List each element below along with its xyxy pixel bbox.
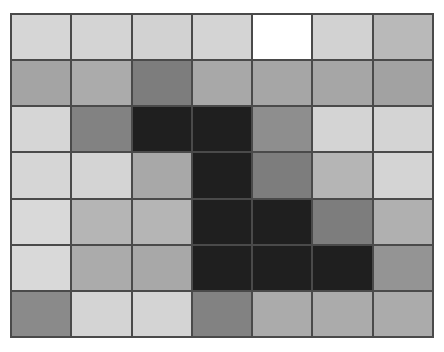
grid-cell-r2c3[interactable] — [133, 61, 191, 105]
grid-cell-r2c4[interactable] — [193, 61, 251, 105]
grid-cell-r5c2[interactable] — [72, 200, 130, 244]
grid-cell-r2c1[interactable] — [12, 61, 70, 105]
grid-cell-r3c5[interactable] — [253, 107, 311, 151]
grid-cell-r1c4[interactable] — [193, 15, 251, 59]
grid-cell-r1c7[interactable] — [374, 15, 432, 59]
grid-cell-r7c6[interactable] — [313, 292, 371, 336]
grid-cell-r1c1[interactable] — [12, 15, 70, 59]
grid-cell-r3c6[interactable] — [313, 107, 371, 151]
grid-cell-r6c7[interactable] — [374, 246, 432, 290]
grid-cell-r1c3[interactable] — [133, 15, 191, 59]
grid-cell-r7c7[interactable] — [374, 292, 432, 336]
grid-cell-r5c7[interactable] — [374, 200, 432, 244]
grid-cell-r2c5[interactable] — [253, 61, 311, 105]
grid-cell-r6c2[interactable] — [72, 246, 130, 290]
grid-cell-r5c4[interactable] — [193, 200, 251, 244]
grid-cell-r5c1[interactable] — [12, 200, 70, 244]
grid-cell-r3c3[interactable] — [133, 107, 191, 151]
grid-cell-r7c3[interactable] — [133, 292, 191, 336]
grid-cell-r4c3[interactable] — [133, 153, 191, 197]
grayscale-grid — [10, 13, 434, 338]
grid-cell-r6c1[interactable] — [12, 246, 70, 290]
grid-cell-r4c7[interactable] — [374, 153, 432, 197]
grid-cell-r4c6[interactable] — [313, 153, 371, 197]
grid-cell-r4c2[interactable] — [72, 153, 130, 197]
grid-cell-r2c2[interactable] — [72, 61, 130, 105]
grid-cell-r5c6[interactable] — [313, 200, 371, 244]
grid-cell-r6c4[interactable] — [193, 246, 251, 290]
grid-cell-r2c7[interactable] — [374, 61, 432, 105]
grid-cell-r4c5[interactable] — [253, 153, 311, 197]
grid-cell-r5c3[interactable] — [133, 200, 191, 244]
grid-cell-r4c4[interactable] — [193, 153, 251, 197]
grid-cell-r5c5[interactable] — [253, 200, 311, 244]
grid-cell-r6c6[interactable] — [313, 246, 371, 290]
grid-cell-r7c5[interactable] — [253, 292, 311, 336]
grid-cell-r7c1[interactable] — [12, 292, 70, 336]
grid-cell-r3c7[interactable] — [374, 107, 432, 151]
grid-cell-r1c6[interactable] — [313, 15, 371, 59]
grid-cell-r3c2[interactable] — [72, 107, 130, 151]
grid-cell-r7c2[interactable] — [72, 292, 130, 336]
grid-cell-r6c3[interactable] — [133, 246, 191, 290]
grid-cell-r1c2[interactable] — [72, 15, 130, 59]
grid-cell-r6c5[interactable] — [253, 246, 311, 290]
grid-canvas — [0, 0, 444, 352]
grid-cell-r4c1[interactable] — [12, 153, 70, 197]
grid-cell-r7c4[interactable] — [193, 292, 251, 336]
grid-cell-r3c4[interactable] — [193, 107, 251, 151]
grid-cell-r2c6[interactable] — [313, 61, 371, 105]
grid-cell-r1c5[interactable] — [253, 15, 311, 59]
grid-cell-r3c1[interactable] — [12, 107, 70, 151]
